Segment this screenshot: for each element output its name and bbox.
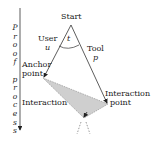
angle-variable: t	[67, 35, 70, 43]
tool-variable: p	[93, 54, 98, 62]
interaction-point-label-line2: point	[110, 99, 131, 107]
angle-arc	[59, 45, 79, 48]
continuation-dash-left	[77, 122, 81, 134]
tool-label: Tool	[87, 45, 104, 53]
continuation-dash-right	[86, 122, 90, 134]
user-label: User	[38, 35, 57, 43]
interaction-point-label-line1: Interaction	[105, 90, 150, 98]
proof-process-label: P r o o f p r o c e s s	[11, 24, 19, 136]
start-label: Start	[61, 13, 82, 21]
anchor-point-label-line2: point	[22, 70, 43, 78]
interaction-label: Interaction	[22, 99, 67, 107]
anchor-point-label-line1: Anchor	[22, 61, 51, 69]
user-variable: u	[45, 44, 50, 52]
axis-letter: s	[11, 127, 19, 136]
